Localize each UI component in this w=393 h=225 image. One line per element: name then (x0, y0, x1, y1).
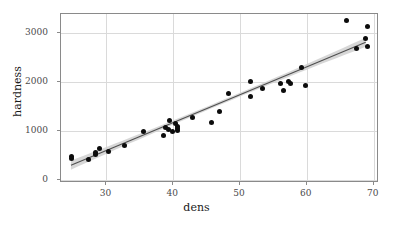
data-point (299, 65, 304, 70)
tick-mark-x-2 (239, 182, 240, 185)
data-point (161, 133, 166, 138)
tick-label-x-0: 30 (85, 188, 125, 198)
chart-figure: 3040506070 0100020003000 dens hardness (0, 0, 393, 225)
data-point (69, 156, 74, 161)
data-point (217, 109, 222, 114)
tick-mark-y-0 (57, 179, 60, 180)
data-point (365, 44, 370, 49)
data-point (106, 149, 111, 154)
data-point (122, 143, 127, 148)
tick-mark-y-3 (57, 32, 60, 33)
tick-mark-x-3 (306, 182, 307, 185)
data-point (86, 157, 91, 162)
data-point (190, 115, 195, 120)
tick-mark-x-4 (373, 182, 374, 185)
x-axis-title: dens (0, 201, 393, 214)
data-point (281, 88, 286, 93)
data-point (365, 24, 370, 29)
y-axis-title: hardness (11, 37, 24, 147)
data-point (141, 129, 146, 134)
data-point (288, 81, 293, 86)
data-point (354, 46, 359, 51)
tick-mark-x-0 (105, 182, 106, 185)
tick-label-x-4: 70 (353, 188, 393, 198)
tick-label-x-3: 60 (286, 188, 326, 198)
data-point (209, 120, 214, 125)
plot-panel (60, 13, 378, 182)
data-point (97, 146, 102, 151)
tick-mark-x-1 (172, 182, 173, 185)
data-point (303, 83, 308, 88)
tick-label-x-1: 40 (152, 188, 192, 198)
tick-label-x-2: 50 (219, 188, 259, 198)
tick-label-y-0: 0 (8, 174, 48, 184)
data-point (278, 81, 283, 86)
data-point (363, 36, 368, 41)
data-point (167, 118, 172, 123)
data-point (344, 18, 349, 23)
data-points-layer (61, 14, 377, 181)
tick-mark-y-2 (57, 81, 60, 82)
data-point (260, 86, 265, 91)
tick-mark-y-1 (57, 130, 60, 131)
data-point (248, 94, 253, 99)
data-point (248, 79, 253, 84)
data-point (226, 91, 231, 96)
